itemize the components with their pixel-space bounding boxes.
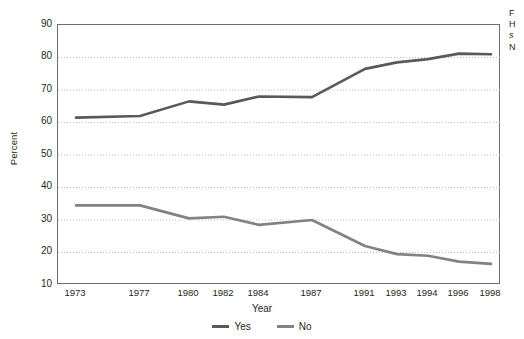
y-tick-80: 80: [26, 51, 52, 61]
x-axis-tick-labels: 1973 1977 1980 1982 1984 1987 1991 1993 …: [0, 287, 524, 303]
legend-label-yes: Yes: [234, 321, 250, 332]
legend-item-yes[interactable]: Yes: [212, 321, 250, 332]
chart-figure: Percent 90 80 70 60 50 40 30 20 10 1973 …: [0, 0, 524, 339]
chart-legend: Yes No: [0, 321, 524, 332]
plot-canvas: [58, 25, 501, 285]
figure-caption: F H s N: [509, 8, 524, 53]
caption-line-3: s: [509, 30, 524, 41]
x-tick-1991: 1991: [353, 287, 374, 298]
data-series-layer: [76, 54, 491, 264]
y-tick-90: 90: [26, 19, 52, 29]
caption-line-1: F: [509, 8, 524, 19]
plot-area: [57, 24, 500, 284]
x-tick-1987: 1987: [300, 287, 321, 298]
series-line-yes: [76, 54, 491, 118]
y-tick-70: 70: [26, 84, 52, 94]
x-tick-1993: 1993: [385, 287, 406, 298]
caption-line-4: N: [509, 42, 524, 53]
y-tick-50: 50: [26, 149, 52, 159]
y-tick-60: 60: [26, 116, 52, 126]
x-axis-title: Year: [0, 303, 524, 314]
y-tick-20: 20: [26, 246, 52, 256]
x-tick-1977: 1977: [128, 287, 149, 298]
legend-swatch-no-icon: [277, 325, 294, 328]
y-tick-30: 30: [26, 214, 52, 224]
legend-label-no: No: [299, 321, 312, 332]
x-tick-1996: 1996: [447, 287, 468, 298]
legend-item-no[interactable]: No: [277, 321, 312, 332]
x-tick-1998: 1998: [479, 287, 500, 298]
x-tick-1984: 1984: [247, 287, 268, 298]
x-tick-1973: 1973: [64, 287, 85, 298]
caption-line-2: H: [509, 19, 524, 30]
x-tick-1994: 1994: [416, 287, 437, 298]
legend-swatch-yes-icon: [212, 325, 229, 328]
y-axis-title: Percent: [8, 119, 19, 179]
x-tick-1980: 1980: [177, 287, 198, 298]
y-tick-40: 40: [26, 181, 52, 191]
x-tick-1982: 1982: [212, 287, 233, 298]
series-line-no: [76, 205, 491, 264]
